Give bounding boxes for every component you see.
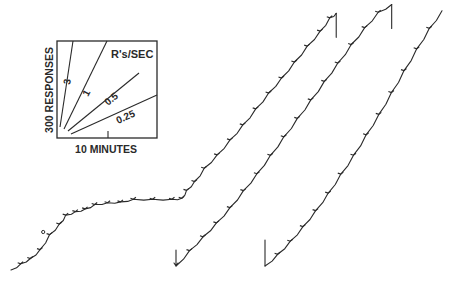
- record-2-pip: [267, 153, 273, 155]
- records-group: [11, 5, 442, 271]
- record-1-pip: [291, 60, 297, 62]
- record-3-pip: [287, 239, 293, 241]
- record-3-pip: [313, 209, 319, 211]
- record-2-pip: [321, 79, 327, 81]
- record-2-line: [176, 5, 392, 267]
- record-1-line: [11, 13, 336, 270]
- record-3-pip: [300, 225, 306, 227]
- record-1-pip: [56, 222, 62, 224]
- record-3-pip: [376, 112, 382, 114]
- record-1-pip: [192, 180, 198, 182]
- record-2-pip: [240, 189, 246, 191]
- record-1-pip: [266, 91, 272, 93]
- record-2-pip: [187, 249, 193, 251]
- record-2-pip: [348, 43, 354, 45]
- record-3-pip: [426, 26, 432, 28]
- y-axis-label: 300 RESPONSES: [43, 47, 55, 133]
- record-3-pip: [338, 172, 344, 174]
- record-3-line: [265, 11, 442, 266]
- record-1-pip: [201, 166, 207, 168]
- rate-label-0.25: 0.25: [114, 108, 137, 126]
- record-3-pip: [388, 91, 394, 93]
- cumulative-record-figure: 3 1 0.5 0.25 R's/SEC 300 RESPONSES 10 MI…: [0, 0, 451, 281]
- record-2-start-marker: [174, 250, 178, 266]
- record-1-pip: [179, 196, 185, 198]
- record-1-pip: [304, 44, 310, 46]
- record-1-pip: [47, 233, 53, 235]
- record-2-pip: [308, 98, 314, 100]
- rate-label-1: 1: [80, 87, 93, 97]
- record-2-pip: [281, 135, 287, 137]
- record-2-pip: [200, 235, 206, 237]
- circle-annotation-marker: [42, 230, 45, 233]
- record-2-pip: [227, 206, 233, 208]
- legend-title: R's/SEC: [111, 48, 153, 60]
- record-1-pip: [227, 138, 233, 140]
- record-1-pip: [214, 153, 220, 155]
- rate-scale-inset: 3 1 0.5 0.25 R's/SEC 300 RESPONSES 10 MI…: [43, 41, 157, 155]
- record-3-pip: [275, 252, 281, 254]
- record-1-pip: [27, 257, 33, 259]
- record-1-pip: [37, 248, 43, 250]
- record-2-pip: [213, 221, 219, 223]
- record-1-pip: [240, 123, 246, 125]
- record-2-pip: [294, 116, 300, 118]
- record-3-pip: [401, 69, 407, 71]
- x-axis-label: 10 MINUTES: [75, 143, 137, 155]
- record-3-pip: [325, 191, 331, 193]
- record-3-pip: [414, 47, 420, 49]
- record-2-pip: [335, 61, 341, 63]
- record-2-pip: [254, 172, 260, 174]
- record-3-pip: [351, 153, 357, 155]
- record-3-pip: [363, 133, 369, 135]
- record-2-pip: [362, 26, 368, 28]
- record-1-pip: [279, 76, 285, 78]
- record-1-pip: [317, 29, 323, 31]
- record-1-pip: [253, 107, 259, 109]
- record-1-pip: [184, 188, 190, 190]
- rate-label-0.5: 0.5: [102, 90, 120, 108]
